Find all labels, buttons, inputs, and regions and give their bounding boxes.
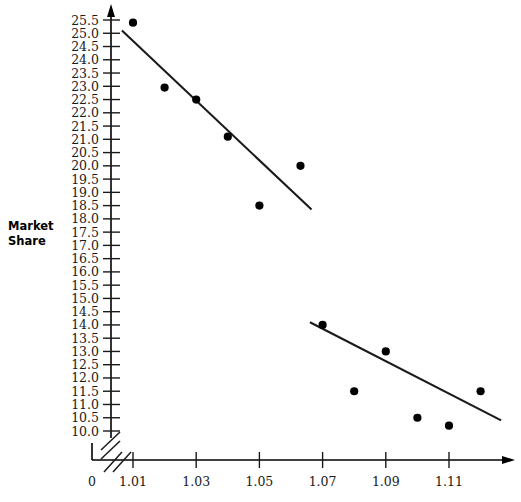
x-tick-label: 1.05 bbox=[245, 474, 273, 489]
y-axis-line-group bbox=[107, 4, 115, 438]
regression-lines bbox=[122, 31, 501, 421]
x-tick-label: 1.11 bbox=[435, 474, 463, 489]
data-point bbox=[224, 133, 232, 141]
regression-line-upper-cluster bbox=[122, 31, 312, 210]
data-point bbox=[445, 422, 453, 430]
data-point bbox=[413, 414, 421, 422]
data-point bbox=[319, 321, 327, 329]
data-point bbox=[192, 95, 200, 103]
y-axis-title-line1: Market bbox=[8, 219, 54, 233]
x-tick-label: 1.07 bbox=[309, 474, 337, 489]
data-point bbox=[255, 202, 263, 210]
x-tick-label: 1.03 bbox=[182, 474, 210, 489]
data-point bbox=[477, 387, 485, 395]
y-axis-arrowhead bbox=[107, 4, 115, 17]
regression-line-lower-cluster bbox=[310, 322, 501, 420]
y-tick-label: 10.0 bbox=[71, 424, 99, 439]
y-axis-ticks: 25.525.024.524.023.523.022.522.021.521.0… bbox=[71, 13, 120, 439]
scatter-chart-figure: Market Share 25.525.024.524.023.523.022.… bbox=[0, 0, 521, 502]
plot-canvas: Market Share 25.525.024.524.023.523.022.… bbox=[0, 0, 521, 502]
data-point bbox=[296, 162, 304, 170]
data-point bbox=[129, 19, 137, 27]
x-axis-line-group bbox=[92, 443, 515, 464]
y-axis-title-line2: Share bbox=[8, 234, 46, 248]
x-tick-label: 1.09 bbox=[372, 474, 400, 489]
x-tick-label: 0 bbox=[88, 474, 96, 489]
x-axis-arrowhead bbox=[502, 456, 515, 464]
x-axis-ticks: 01.011.031.051.071.091.11 bbox=[88, 452, 463, 489]
x-tick-label: 1.01 bbox=[119, 474, 147, 489]
data-point bbox=[161, 84, 169, 92]
data-point bbox=[350, 387, 358, 395]
data-point-markers bbox=[129, 19, 485, 430]
x-axis-break-icon bbox=[104, 452, 131, 472]
data-point bbox=[382, 347, 390, 355]
